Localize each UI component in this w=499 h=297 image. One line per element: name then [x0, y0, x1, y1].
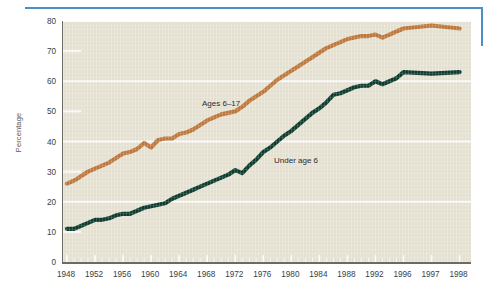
- x-tick-label: 1968: [197, 270, 215, 279]
- x-tick-label: 1996: [393, 270, 411, 279]
- x-tick-label: 1956: [113, 270, 131, 279]
- y-tick-label: 0: [34, 258, 56, 267]
- y-tick-label: 40: [34, 137, 56, 146]
- y-tick-label: 80: [34, 17, 56, 26]
- x-tick-label: 1952: [85, 270, 103, 279]
- x-tick-label: 1984: [309, 270, 327, 279]
- x-tick-label: 1998: [449, 270, 467, 279]
- ages-6-17-label: Ages 6–17: [202, 99, 240, 108]
- x-tick-label: 1960: [141, 270, 159, 279]
- x-axis-line: [62, 262, 471, 264]
- y-axis-title: Percentage: [14, 93, 23, 173]
- y-tick-label: 30: [34, 167, 56, 176]
- x-tick-label: 1980: [281, 270, 299, 279]
- x-tick-label: 1988: [337, 270, 355, 279]
- x-tick-label: 1948: [57, 270, 75, 279]
- line-chart: Percentage 01020304050607080 19481952195…: [0, 0, 499, 297]
- y-tick-label: 50: [34, 107, 56, 116]
- x-tick-label: 1964: [169, 270, 187, 279]
- y-tick-label: 10: [34, 227, 56, 236]
- y-tick-label: 70: [34, 47, 56, 56]
- x-tick-label: 1992: [365, 270, 383, 279]
- plot-area: [62, 21, 471, 262]
- y-axis-ticks: 01020304050607080: [32, 0, 56, 297]
- x-tick-label: 1972: [225, 270, 243, 279]
- x-tick-label: 1997: [421, 270, 439, 279]
- y-tick-label: 20: [34, 197, 56, 206]
- series-line-under-age-6: [67, 72, 460, 229]
- x-tick-label: 1976: [253, 270, 271, 279]
- figure-root: Percentage 01020304050607080 19481952195…: [0, 0, 499, 297]
- x-axis-ticks: 1948195219561960196419681972197619801984…: [0, 270, 499, 286]
- plot-lines: [63, 21, 471, 262]
- under-age-6-label: Under age 6: [274, 156, 318, 165]
- series-line-ages-6-17: [67, 26, 460, 184]
- y-tick-label: 60: [34, 77, 56, 86]
